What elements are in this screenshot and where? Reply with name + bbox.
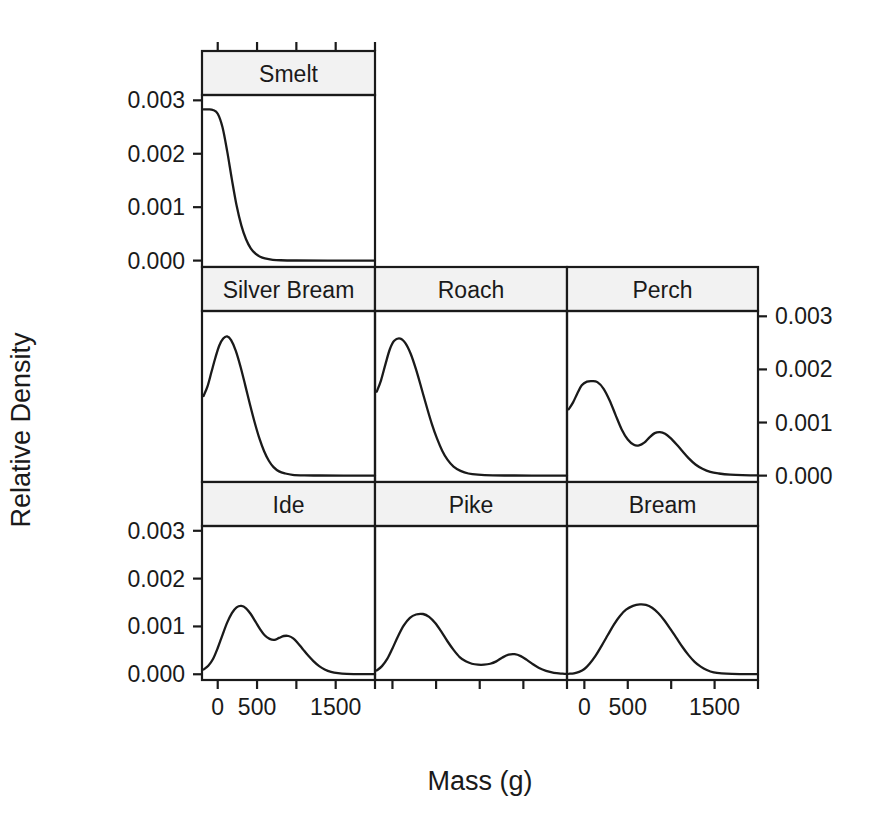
- strip-label-roach: Roach: [438, 277, 504, 303]
- y-tick-label-left: 0.000: [127, 661, 185, 687]
- y-tick-label-right: 0.000: [775, 463, 833, 489]
- strip-label-smelt: Smelt: [259, 61, 318, 87]
- chart-background: [0, 0, 887, 840]
- y-tick-label-right: 0.003: [775, 303, 833, 329]
- strip-label-silver-bream: Silver Bream: [223, 277, 355, 303]
- x-tick-label: 1500: [689, 694, 740, 720]
- y-tick-label-left: 0.001: [127, 613, 185, 639]
- strip-label-bream: Bream: [629, 492, 697, 518]
- y-tick-label-left: 0.000: [127, 248, 185, 274]
- chart-root: SmeltSilver BreamRoachPerchIdePikeBream …: [0, 0, 887, 840]
- x-tick-label: 500: [609, 694, 647, 720]
- y-tick-label-left: 0.003: [127, 518, 185, 544]
- y-tick-label-left: 0.002: [127, 141, 185, 167]
- strip-label-ide: Ide: [273, 492, 305, 518]
- x-tick-label: 0: [211, 694, 224, 720]
- strip-label-perch: Perch: [632, 277, 692, 303]
- y-axis-label: Relative Density: [6, 332, 36, 528]
- x-tick-label: 0: [578, 694, 591, 720]
- x-tick-label: 1500: [310, 694, 361, 720]
- y-tick-label-left: 0.001: [127, 194, 185, 220]
- x-tick-label: 500: [238, 694, 276, 720]
- x-axis-label: Mass (g): [427, 766, 532, 796]
- y-tick-label-right: 0.001: [775, 410, 833, 436]
- y-tick-label-left: 0.003: [127, 87, 185, 113]
- strip-label-pike: Pike: [449, 492, 494, 518]
- y-tick-label-right: 0.002: [775, 356, 833, 382]
- trellis-density-chart: SmeltSilver BreamRoachPerchIdePikeBream …: [0, 0, 887, 840]
- y-tick-label-left: 0.002: [127, 566, 185, 592]
